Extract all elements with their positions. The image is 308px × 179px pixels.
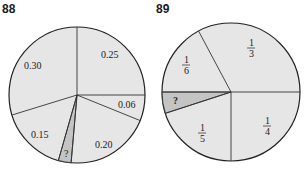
- fraction-denominator: 3: [249, 48, 254, 59]
- pie-chart-89: [162, 23, 300, 161]
- pie-88-label-0.25: 0.25: [101, 49, 119, 60]
- fraction-numerator: 1: [249, 37, 254, 48]
- fraction-denominator: 4: [265, 126, 270, 137]
- fraction-numerator: 1: [265, 115, 270, 126]
- fraction-denominator: 6: [184, 65, 189, 76]
- fraction-denominator: 5: [200, 133, 205, 144]
- pie-89-label-one-quarter: 1 4: [263, 115, 271, 137]
- pie-88-label-0.20: 0.20: [95, 139, 113, 150]
- pie-88-label-unknown: ?: [64, 148, 69, 159]
- pie-89-label-one-third: 1 3: [247, 37, 255, 59]
- pie-89-label-one-fifth: 1 5: [198, 122, 206, 144]
- pie-88-label-0.06: 0.06: [118, 99, 136, 110]
- pie-89-label-one-sixth: 1 6: [182, 54, 190, 76]
- fraction-numerator: 1: [184, 54, 189, 65]
- pie-88-label-0.15: 0.15: [31, 129, 49, 140]
- fraction-numerator: 1: [200, 122, 205, 133]
- pie-chart-88: [9, 27, 145, 163]
- pie-89-label-unknown: ?: [173, 95, 178, 106]
- pie-88-label-0.30: 0.30: [24, 60, 42, 71]
- pie-charts: 0.25 0.06 0.20 ? 0.15 0.30 1 3 1 4 1 5 ?…: [0, 0, 308, 179]
